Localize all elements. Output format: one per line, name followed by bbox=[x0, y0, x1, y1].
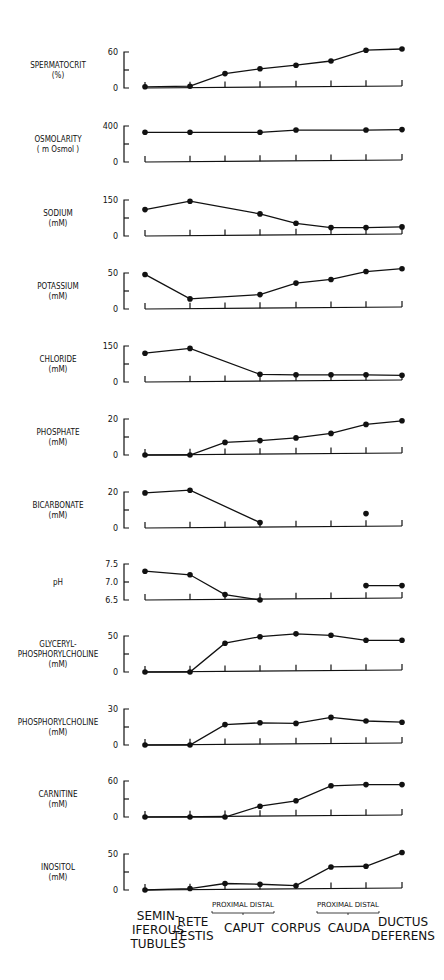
panel-label: (mM) bbox=[49, 800, 68, 809]
data-point bbox=[363, 372, 369, 378]
data-point bbox=[187, 669, 193, 675]
sub-label-distal: DISTAL bbox=[250, 901, 274, 909]
data-point bbox=[293, 883, 299, 889]
data-point bbox=[363, 422, 369, 428]
panel-label: (mM) bbox=[49, 511, 68, 520]
data-point bbox=[293, 62, 299, 68]
panel-label: (%) bbox=[52, 71, 65, 80]
data-point bbox=[363, 127, 369, 133]
data-point bbox=[187, 198, 193, 204]
y-tick-label: 60 bbox=[108, 48, 118, 57]
x-category-label: CORPUS bbox=[271, 921, 321, 935]
x-category-label: RETE bbox=[178, 915, 209, 929]
y-tick-label: 0 bbox=[113, 378, 118, 387]
panel-label: GLYCERYL- bbox=[39, 640, 77, 649]
data-point bbox=[328, 715, 334, 721]
data-point bbox=[399, 372, 405, 378]
data-point bbox=[399, 583, 405, 589]
data-point bbox=[142, 490, 148, 496]
x-axis bbox=[145, 598, 402, 600]
y-tick-label: 60 bbox=[108, 777, 118, 786]
y-tick-label: 30 bbox=[108, 705, 118, 714]
data-point bbox=[328, 431, 334, 437]
x-axis bbox=[145, 307, 402, 309]
data-point bbox=[257, 211, 263, 217]
data-point bbox=[222, 440, 228, 446]
panel-label: SODIUM bbox=[43, 209, 72, 218]
data-point bbox=[293, 372, 299, 378]
data-point bbox=[363, 782, 369, 788]
panel-label: BICARBONATE bbox=[32, 501, 84, 510]
series-line bbox=[145, 490, 260, 522]
data-point bbox=[142, 742, 148, 748]
epididymal-fluid-composition-chart: SPERMATOCRIT(%)060OSMOLARITY( m Osmol )0… bbox=[0, 0, 444, 980]
data-point bbox=[222, 814, 228, 820]
series-line bbox=[145, 571, 260, 600]
data-point bbox=[363, 718, 369, 724]
x-axis bbox=[145, 234, 402, 236]
data-point bbox=[363, 47, 369, 53]
y-tick-label: 0 bbox=[113, 84, 118, 93]
brace bbox=[212, 911, 274, 915]
panel-label: (mM) bbox=[49, 365, 68, 374]
data-point bbox=[399, 850, 405, 856]
series-line bbox=[145, 421, 402, 455]
y-tick-label: 50 bbox=[108, 850, 118, 859]
data-point bbox=[363, 511, 369, 517]
data-point bbox=[257, 597, 263, 603]
x-axis bbox=[145, 160, 402, 162]
data-point bbox=[257, 66, 263, 72]
data-point bbox=[187, 130, 193, 136]
panel-chloride: CHLORIDE(mM)0150 bbox=[39, 342, 404, 387]
y-tick-label: 0 bbox=[113, 158, 118, 167]
x-category-label: TESTIS bbox=[171, 929, 213, 943]
panel-glyceryl-phosphorylcholine: GLYCERYL-PHOSPHORYLCHOLINE(mM)050 bbox=[18, 631, 405, 677]
y-tick-label: 50 bbox=[108, 269, 118, 278]
data-point bbox=[142, 130, 148, 136]
panel-label: (mM) bbox=[49, 219, 68, 228]
series-line bbox=[145, 201, 402, 227]
data-point bbox=[293, 220, 299, 226]
panel-label: (mM) bbox=[49, 873, 68, 882]
data-point bbox=[328, 58, 334, 64]
data-point bbox=[187, 814, 193, 820]
data-point bbox=[328, 225, 334, 231]
data-point bbox=[293, 631, 299, 637]
series-line bbox=[145, 269, 402, 299]
series-line bbox=[145, 785, 402, 817]
data-point bbox=[187, 346, 193, 352]
y-tick-label: 0 bbox=[113, 232, 118, 241]
y-tick-label: 20 bbox=[108, 488, 118, 497]
y-tick-label: 6.5 bbox=[105, 596, 118, 605]
data-point bbox=[187, 452, 193, 458]
panel-inositol: INOSITOL(mM)050 bbox=[41, 850, 405, 895]
data-point bbox=[187, 296, 193, 302]
y-tick-label: 7.0 bbox=[105, 578, 118, 587]
data-point bbox=[257, 130, 263, 136]
panel-label: OSMOLARITY bbox=[34, 135, 82, 144]
y-tick-label: 0 bbox=[113, 451, 118, 460]
brace bbox=[317, 911, 379, 915]
series-line bbox=[145, 853, 402, 890]
x-category-label: CAUDA bbox=[328, 921, 371, 935]
y-tick-label: 20 bbox=[108, 415, 118, 424]
data-point bbox=[187, 83, 193, 89]
panel-phosphate: PHOSPHATE(mM)020 bbox=[37, 415, 405, 460]
data-point bbox=[142, 669, 148, 675]
data-point bbox=[142, 452, 148, 458]
y-tick-label: 0 bbox=[113, 524, 118, 533]
data-point bbox=[187, 742, 193, 748]
panel-label: CHLORIDE bbox=[39, 355, 76, 364]
x-category-label: DEFERENS bbox=[371, 929, 435, 943]
data-point bbox=[142, 350, 148, 356]
y-tick-label: 0 bbox=[113, 886, 118, 895]
data-point bbox=[257, 520, 263, 526]
data-point bbox=[363, 269, 369, 275]
data-point bbox=[222, 71, 228, 77]
panel-spermatocrit: SPERMATOCRIT(%)060 bbox=[30, 46, 405, 93]
data-point bbox=[328, 632, 334, 638]
data-point bbox=[399, 782, 405, 788]
data-point bbox=[257, 634, 263, 640]
y-tick-label: 0 bbox=[113, 813, 118, 822]
data-point bbox=[328, 372, 334, 378]
